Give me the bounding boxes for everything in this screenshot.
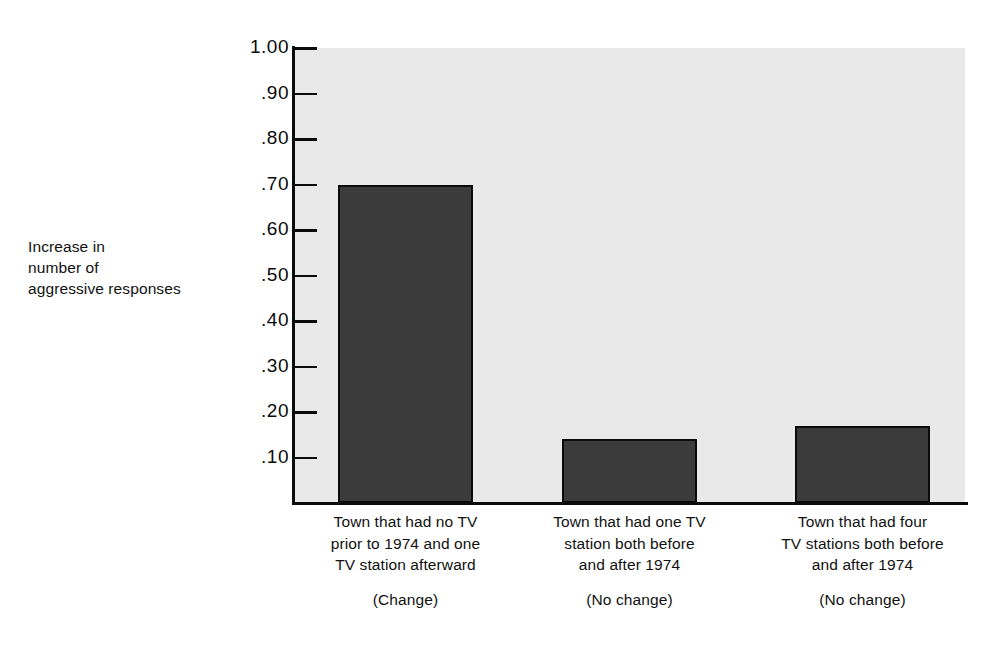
y-tick-mark	[295, 93, 317, 96]
y-tick-mark	[295, 366, 317, 369]
category-line-1: Town that had one TV	[518, 511, 742, 533]
category-line-2: station both before	[518, 533, 742, 555]
category-note: (Change)	[294, 589, 518, 611]
y-tick-mark	[295, 320, 317, 323]
category-line-3: TV station afterward	[294, 554, 518, 576]
category-line-3: and after 1974	[518, 554, 742, 576]
category-line-1: Town that had four	[751, 511, 975, 533]
category-line-3: and after 1974	[751, 554, 975, 576]
y-tick-label: .40	[261, 308, 289, 332]
y-tick-mark	[295, 184, 317, 187]
y-tick-label: .90	[261, 81, 289, 105]
bar-one-station-town	[562, 439, 697, 503]
y-tick-label: .10	[261, 445, 289, 469]
y-tick-label: .60	[261, 217, 289, 241]
category-note: (No change)	[518, 589, 742, 611]
y-tick-label: 1.00	[250, 35, 289, 59]
category-note: (No change)	[751, 589, 975, 611]
y-tick-mark	[295, 229, 317, 232]
y-tick-mark	[295, 411, 317, 414]
y-axis-label-line-3: aggressive responses	[28, 278, 228, 299]
y-tick-mark	[295, 275, 317, 278]
bar-change-town	[338, 185, 473, 504]
category-line-1: Town that had no TV	[294, 511, 518, 533]
y-axis-label: Increase in number of aggressive respons…	[28, 236, 228, 299]
y-tick-mark	[295, 138, 317, 141]
y-tick-label: .50	[261, 263, 289, 287]
x-category-label-3: Town that had four TV stations both befo…	[751, 511, 975, 610]
y-tick-mark	[295, 47, 317, 50]
category-line-2: prior to 1974 and one	[294, 533, 518, 555]
y-tick-label: .20	[261, 399, 289, 423]
y-tick-label: .70	[261, 172, 289, 196]
y-axis-label-line-2: number of	[28, 257, 228, 278]
y-tick-label: .30	[261, 354, 289, 378]
x-category-label-2: Town that had one TV station both before…	[518, 511, 742, 610]
y-tick-mark	[295, 457, 317, 460]
y-tick-label: .80	[261, 126, 289, 150]
bar-chart-figure: Increase in number of aggressive respons…	[0, 0, 991, 654]
bar-four-stations-town	[795, 426, 930, 503]
x-category-label-1: Town that had no TV prior to 1974 and on…	[294, 511, 518, 610]
y-axis-label-line-1: Increase in	[28, 236, 228, 257]
category-line-2: TV stations both before	[751, 533, 975, 555]
